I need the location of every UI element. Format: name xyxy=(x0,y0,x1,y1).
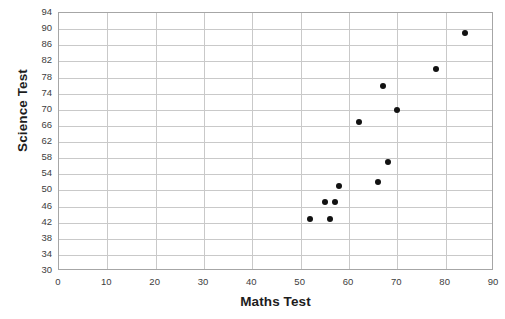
gridline-horizontal xyxy=(59,158,492,159)
x-axis-title: Maths Test xyxy=(58,294,493,309)
y-axis-tick-label: 54 xyxy=(2,168,52,178)
gridline-vertical xyxy=(252,13,253,269)
gridline-horizontal xyxy=(59,94,492,95)
data-point xyxy=(322,199,328,205)
gridline-horizontal xyxy=(59,78,492,79)
y-axis-tick-label: 66 xyxy=(2,120,52,130)
gridline-vertical xyxy=(446,13,447,269)
data-point xyxy=(380,83,386,89)
y-axis-tick-label: 82 xyxy=(2,55,52,65)
y-axis-tick-label: 90 xyxy=(2,23,52,33)
data-point xyxy=(433,66,439,72)
y-axis-tick-label: 78 xyxy=(2,72,52,82)
x-axis-tick-label: 70 xyxy=(376,276,416,287)
y-axis-tick-label: 38 xyxy=(2,233,52,243)
data-point xyxy=(332,199,338,205)
x-axis-tick-label: 60 xyxy=(328,276,368,287)
y-axis-tick-label: 86 xyxy=(2,39,52,49)
y-axis-tick-label: 42 xyxy=(2,217,52,227)
gridline-vertical xyxy=(107,13,108,269)
gridline-horizontal xyxy=(59,223,492,224)
x-axis-tick-label: 0 xyxy=(38,276,78,287)
data-point xyxy=(385,159,391,165)
data-point xyxy=(307,216,313,222)
x-axis-tick-label: 90 xyxy=(473,276,505,287)
data-point xyxy=(356,119,362,125)
y-axis-tick-label: 50 xyxy=(2,184,52,194)
x-axis-tick-label: 50 xyxy=(280,276,320,287)
gridline-horizontal xyxy=(59,174,492,175)
data-point xyxy=(462,30,468,36)
y-axis-tick-label: 70 xyxy=(2,104,52,114)
y-axis-tick-label: 74 xyxy=(2,88,52,98)
gridline-horizontal xyxy=(59,126,492,127)
x-axis-tick-labels: 0102030405060708090 xyxy=(58,276,493,290)
gridline-vertical xyxy=(156,13,157,269)
y-axis-tick-label: 46 xyxy=(2,201,52,211)
gridline-horizontal xyxy=(59,45,492,46)
y-axis-tick-label: 30 xyxy=(2,265,52,275)
x-axis-tick-label: 80 xyxy=(425,276,465,287)
x-axis-tick-label: 10 xyxy=(86,276,126,287)
plot-area xyxy=(58,12,493,270)
x-axis-tick-label: 20 xyxy=(135,276,175,287)
data-point xyxy=(336,183,342,189)
gridline-vertical xyxy=(349,13,350,269)
gridline-horizontal xyxy=(59,29,492,30)
x-axis-tick-label: 30 xyxy=(183,276,223,287)
gridline-vertical xyxy=(204,13,205,269)
y-axis-tick-label: 58 xyxy=(2,152,52,162)
x-axis-tick-label: 40 xyxy=(231,276,271,287)
y-axis-tick-label: 34 xyxy=(2,249,52,259)
y-axis-tick-labels: 3034384246505458626670747882869094 xyxy=(0,12,52,270)
data-point xyxy=(375,179,381,185)
gridline-horizontal xyxy=(59,207,492,208)
gridline-horizontal xyxy=(59,239,492,240)
data-point xyxy=(327,216,333,222)
gridline-horizontal xyxy=(59,255,492,256)
y-axis-tick-label: 62 xyxy=(2,136,52,146)
gridline-vertical xyxy=(301,13,302,269)
gridline-horizontal xyxy=(59,61,492,62)
gridline-vertical xyxy=(397,13,398,269)
gridline-horizontal xyxy=(59,110,492,111)
y-axis-tick-label: 94 xyxy=(2,7,52,17)
scatter-chart: Science Test 303438424650545862667074788… xyxy=(0,0,505,319)
gridline-horizontal xyxy=(59,142,492,143)
data-point xyxy=(394,107,400,113)
gridline-horizontal xyxy=(59,190,492,191)
